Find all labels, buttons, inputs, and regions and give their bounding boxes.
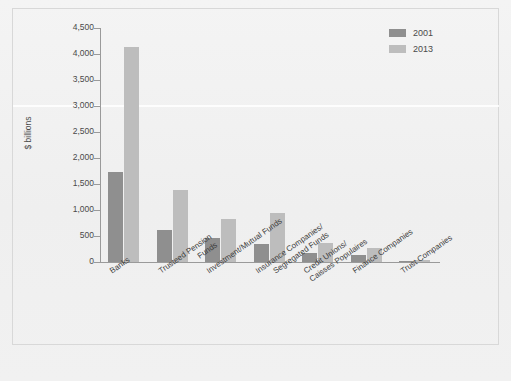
y-tick-2000: [94, 158, 100, 159]
legend-item-2013: 2013: [389, 44, 479, 54]
legend-label-2013: 2013: [413, 44, 433, 54]
y-tick-2500: [94, 132, 100, 133]
y-tick-0: [94, 262, 100, 263]
category-label: Banks: [108, 255, 132, 276]
chart-figure: 05001,0001,5002,0002,5003,0003,5004,0004…: [0, 0, 511, 381]
legend-label-2001: 2001: [413, 28, 433, 38]
category-label-line1: Banks: [108, 255, 131, 275]
chart-legend: 2001 2013: [389, 28, 479, 60]
y-tick-1500: [94, 184, 100, 185]
y-tick-3000: [94, 106, 100, 107]
legend-swatch-2001: [389, 29, 406, 37]
legend-swatch-2013: [389, 45, 406, 53]
category-label: Trusteed PensionFunds: [157, 232, 219, 283]
y-tick-1000: [94, 210, 100, 211]
legend-item-2001: 2001: [389, 28, 479, 38]
y-tick-500: [94, 236, 100, 237]
y-tick-3500: [94, 80, 100, 81]
y-tick-4500: [94, 28, 100, 29]
y-tick-4000: [94, 54, 100, 55]
